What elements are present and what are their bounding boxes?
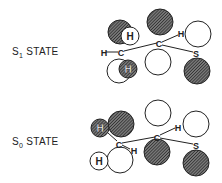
atom-c: C (154, 133, 161, 143)
atom-h: H (124, 64, 131, 75)
orbital-hatched (108, 111, 134, 137)
atom-h: H (175, 123, 182, 133)
atom-s: S (193, 49, 199, 59)
orbital-hatched (183, 150, 209, 176)
atom-c: C (116, 140, 123, 150)
bond-c-s (162, 45, 193, 52)
atom-h: H (101, 48, 108, 58)
orbital-white (145, 100, 171, 126)
atom-s: S (193, 141, 199, 151)
atom-h: H (126, 31, 133, 42)
atom-c: C (118, 48, 125, 58)
orbital-hatched (184, 58, 210, 84)
atom-h: H (131, 146, 138, 156)
atom-h: H (95, 156, 102, 167)
orbital-white (145, 49, 171, 75)
orbital-white (185, 21, 211, 47)
orbital-white (107, 147, 133, 173)
molecule-diagrams: H H H C C H S H H C H C H S (0, 0, 222, 183)
orbital-white (183, 111, 209, 137)
atom-h: H (178, 29, 185, 39)
atom-h: H (96, 123, 103, 134)
bond-c-h (162, 35, 178, 42)
bond-c-h (160, 128, 175, 135)
orbital-hatched (147, 9, 173, 35)
atom-c: C (156, 39, 163, 49)
s0-molecule: H H C H C H S (90, 100, 209, 176)
s1-molecule: H H H C C H S (101, 9, 211, 84)
